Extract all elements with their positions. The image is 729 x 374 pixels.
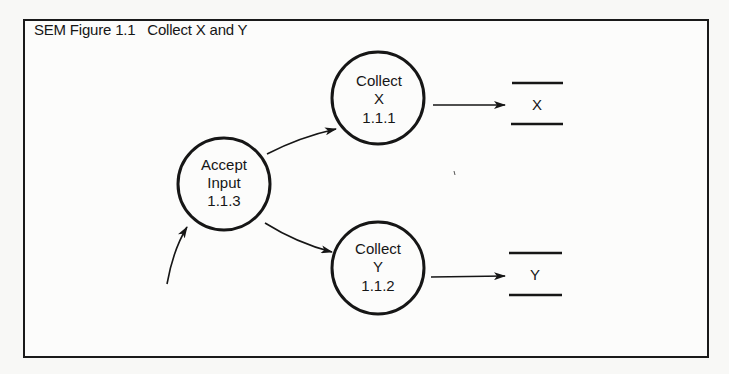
- process-label-line2: Y: [373, 258, 383, 275]
- process-label-line2: Input: [207, 174, 241, 191]
- process-collect-y: Collect Y 1.1.2: [332, 222, 424, 314]
- process-accept-input: Accept Input 1.1.3: [178, 138, 270, 230]
- process-label-line1: Collect: [355, 240, 402, 257]
- process-number: 1.1.2: [361, 277, 394, 294]
- diagram-canvas: SEM Figure 1.1 Collect X and Y Accept In…: [0, 0, 729, 374]
- data-store-y: Y: [509, 253, 562, 295]
- store-label: Y: [530, 266, 540, 283]
- scan-speck: [454, 171, 455, 175]
- process-label-line1: Collect: [356, 72, 403, 89]
- flow-arrow-input: [167, 227, 187, 284]
- flow-arrow-accept-to-collect-x: [267, 129, 336, 154]
- process-label-line2: X: [374, 90, 384, 107]
- process-number: 1.1.1: [362, 109, 395, 126]
- flow-arrow-accept-to-collect-y: [265, 223, 332, 252]
- process-number: 1.1.3: [207, 192, 240, 209]
- process-collect-x: Collect X 1.1.1: [332, 52, 424, 144]
- flow-arrow-collect-y-to-store-y: [431, 276, 505, 277]
- data-store-x: X: [511, 83, 563, 124]
- store-label: X: [532, 96, 542, 113]
- data-flow-diagram: Accept Input 1.1.3 Collect X 1.1.1 Colle…: [0, 0, 729, 374]
- process-label-line1: Accept: [201, 156, 248, 173]
